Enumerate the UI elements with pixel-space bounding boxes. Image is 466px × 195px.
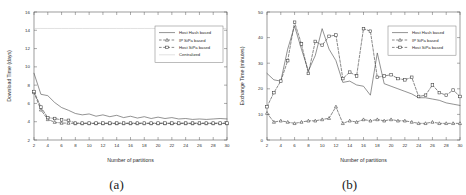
x-tick-label: 20: [156, 143, 161, 148]
data-marker: [431, 120, 434, 123]
series-0: [34, 73, 227, 119]
data-marker: [459, 95, 462, 98]
x-tick-label: 24: [183, 143, 188, 148]
data-marker: [184, 122, 187, 125]
x-tick-label: 20: [389, 143, 394, 148]
data-marker: [321, 44, 324, 47]
exchange-time-chart: 2468101214161820222426283001020304050Num…: [233, 0, 466, 170]
data-marker: [314, 119, 317, 122]
data-marker: [198, 122, 201, 125]
data-marker: [53, 121, 56, 124]
data-marker: [46, 116, 49, 119]
x-tick-label: 8: [307, 143, 310, 148]
data-marker: [410, 76, 413, 79]
data-marker: [321, 118, 324, 121]
data-marker: [67, 119, 70, 122]
data-marker: [369, 30, 372, 33]
x-tick-label: 28: [211, 143, 216, 148]
data-marker: [410, 120, 413, 123]
data-marker: [445, 122, 448, 125]
legend-label: Centralized: [179, 52, 201, 57]
data-marker: [279, 119, 282, 122]
y-tick-label: 12: [25, 46, 30, 51]
x-tick-label: 22: [402, 143, 407, 148]
download-time-panel: 24681012141618202224262830246810121416Nu…: [0, 0, 233, 195]
x-tick-label: 12: [333, 143, 338, 148]
data-marker: [300, 120, 303, 123]
data-marker: [438, 122, 441, 125]
legend: Host Hash basedIP SiPa basedHost SiPa ba…: [388, 26, 456, 55]
y-tick-label: 6: [28, 101, 31, 106]
data-marker: [60, 119, 63, 122]
data-marker: [452, 122, 455, 125]
data-marker: [157, 122, 160, 125]
x-tick-label: 2: [33, 143, 36, 148]
x-tick-label: 4: [280, 143, 283, 148]
x-axis-title: Number of partitions: [340, 157, 387, 163]
data-marker: [424, 122, 427, 125]
data-marker: [348, 71, 351, 74]
data-marker: [397, 77, 400, 80]
data-marker: [328, 35, 331, 38]
x-tick-label: 14: [347, 143, 352, 148]
legend-label: Host Hash based: [179, 30, 212, 35]
data-marker: [122, 122, 125, 125]
x-tick-label: 28: [444, 143, 449, 148]
data-marker: [166, 46, 169, 49]
panel-caption-a: (a): [0, 177, 233, 193]
x-tick-label: 2: [266, 143, 269, 148]
x-tick-label: 22: [169, 143, 174, 148]
y-tick-label: 14: [25, 28, 30, 33]
x-tick-label: 30: [225, 143, 230, 148]
data-marker: [376, 76, 379, 79]
data-marker: [95, 122, 98, 125]
x-tick-label: 10: [320, 143, 325, 148]
x-tick-label: 18: [142, 143, 147, 148]
data-marker: [212, 122, 215, 125]
legend-label: IP SiPa based: [412, 38, 439, 43]
data-marker: [335, 34, 338, 37]
data-marker: [438, 91, 441, 94]
data-marker: [383, 75, 386, 78]
y-tick-label: 4: [28, 119, 31, 124]
data-marker: [115, 122, 118, 125]
data-marker: [334, 105, 337, 108]
data-marker: [355, 75, 358, 78]
x-tick-label: 30: [458, 143, 463, 148]
data-marker: [342, 77, 345, 80]
data-marker: [424, 94, 427, 97]
legend-label: IP SiPa based: [179, 38, 206, 43]
data-marker: [399, 46, 402, 49]
data-marker: [136, 122, 139, 125]
data-marker: [177, 122, 180, 125]
data-marker: [362, 27, 365, 30]
legend-label: Host SiPa based: [179, 45, 211, 50]
data-marker: [129, 122, 132, 125]
data-marker: [205, 122, 208, 125]
data-marker: [219, 122, 222, 125]
x-tick-label: 10: [87, 143, 92, 148]
data-marker: [53, 117, 56, 120]
legend: Host Hash basedIP SiPa basedHost SiPa ba…: [155, 26, 223, 63]
data-marker: [60, 121, 63, 124]
series-path: [34, 73, 227, 119]
data-marker: [102, 122, 105, 125]
data-marker: [226, 122, 229, 125]
data-marker: [307, 119, 310, 122]
data-marker: [396, 119, 399, 122]
x-axis-title: Number of partitions: [107, 157, 154, 163]
panel-caption-b: (b): [233, 177, 466, 193]
y-axis-title: Download Time (days): [6, 50, 12, 102]
x-tick-label: 26: [430, 143, 435, 148]
y-tick-label: 50: [258, 10, 263, 15]
x-tick-label: 24: [416, 143, 421, 148]
x-tick-label: 4: [47, 143, 50, 148]
legend-label: Host Hash based: [412, 30, 445, 35]
y-tick-label: 10: [25, 64, 30, 69]
data-marker: [403, 119, 406, 122]
y-tick-label: 10: [258, 112, 263, 117]
y-tick-label: 40: [258, 35, 263, 40]
data-marker: [40, 106, 43, 109]
x-tick-label: 12: [100, 143, 105, 148]
download-time-chart: 24681012141618202224262830246810121416Nu…: [0, 0, 233, 170]
